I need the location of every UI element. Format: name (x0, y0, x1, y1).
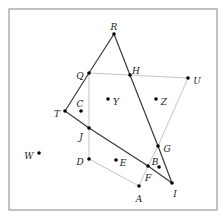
point-label-h: H (131, 66, 140, 76)
point-t (63, 109, 67, 113)
point-c (79, 109, 83, 113)
point-label-j: J (77, 132, 84, 142)
point-label-b: B (151, 157, 159, 167)
point-g (156, 144, 160, 148)
point-q (87, 71, 91, 75)
point-w (37, 151, 41, 155)
point-u (186, 76, 190, 80)
dark-segment-rq (89, 34, 114, 73)
point-label-i: I (172, 189, 177, 199)
point-z (154, 97, 158, 101)
light-segments (89, 73, 188, 186)
light-segment-ad (89, 159, 139, 186)
point-label-g: G (163, 144, 170, 154)
point-label-u: U (193, 76, 201, 86)
point-y (106, 97, 110, 101)
point-i (170, 181, 174, 185)
point-d (87, 157, 91, 161)
point-label-q: Q (76, 71, 84, 81)
light-segment-qh (89, 73, 130, 75)
diagram-frame (9, 9, 217, 210)
point-label-t: T (54, 109, 61, 119)
point-e (114, 158, 118, 162)
geometry-diagram: RQHUYZCTJGWDEBFIA (0, 0, 223, 218)
point-label-y: Y (113, 97, 120, 107)
dark-segment-tj (65, 111, 89, 128)
point-label-w: W (24, 151, 34, 161)
light-segment-ug (158, 78, 188, 146)
point-a (137, 184, 141, 188)
dark-segment-hg (130, 75, 158, 146)
point-label-a: A (135, 194, 143, 204)
point-r (112, 32, 116, 36)
point-label-z: Z (160, 97, 168, 107)
point-label-e: E (119, 158, 127, 168)
point-j (87, 126, 91, 130)
dark-segment-rh (114, 34, 130, 75)
point-f (146, 164, 150, 168)
labels-layer: RQHUYZCTJGWDEBFIA (24, 22, 201, 204)
point-label-f: F (144, 173, 152, 183)
point-label-d: D (75, 157, 83, 167)
points-layer (37, 32, 190, 188)
point-label-c: C (77, 99, 84, 109)
point-label-r: R (110, 22, 118, 32)
dark-segment-jf (89, 128, 148, 166)
